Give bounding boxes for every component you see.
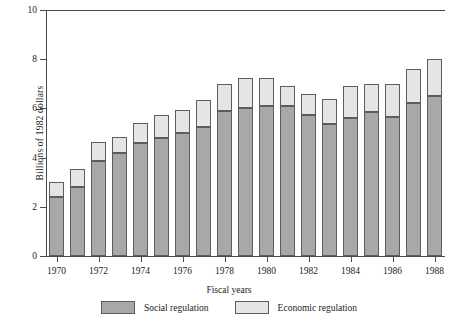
x-axis-line bbox=[46, 256, 445, 257]
bar-segment-social[interactable] bbox=[406, 103, 421, 256]
bar-segment-social[interactable] bbox=[385, 117, 400, 256]
bar-segment-social[interactable] bbox=[175, 133, 190, 256]
x-axis-tick-label: 1986 bbox=[383, 266, 402, 276]
bar-1976[interactable] bbox=[175, 110, 190, 256]
x-axis-tick-label: 1984 bbox=[341, 266, 360, 276]
bar-1975[interactable] bbox=[154, 115, 169, 256]
bar-segment-economic[interactable] bbox=[154, 115, 169, 138]
bar-segment-social[interactable] bbox=[133, 143, 148, 256]
y-axis-tick-label: 0 bbox=[32, 251, 37, 261]
y-axis-tick-label: 10 bbox=[28, 5, 38, 15]
bar-segment-economic[interactable] bbox=[217, 84, 232, 111]
bar-segment-economic[interactable] bbox=[322, 99, 337, 125]
legend-swatch bbox=[235, 301, 269, 314]
bar-segment-economic[interactable] bbox=[70, 169, 85, 187]
x-axis-tick bbox=[435, 256, 436, 262]
bar-1974[interactable] bbox=[133, 123, 148, 256]
x-axis-tick-label: 1972 bbox=[89, 266, 108, 276]
bar-segment-economic[interactable] bbox=[91, 142, 106, 162]
plot-area: 0246810 19701972197419761978198019821984… bbox=[46, 10, 445, 257]
legend-label: Economic regulation bbox=[278, 303, 357, 313]
bar-segment-social[interactable] bbox=[70, 187, 85, 256]
x-axis-tick bbox=[141, 256, 142, 262]
x-axis-tick-label: 1970 bbox=[47, 266, 66, 276]
bar-1978[interactable] bbox=[217, 84, 232, 256]
bar-segment-social[interactable] bbox=[217, 111, 232, 256]
bar-segment-economic[interactable] bbox=[196, 100, 211, 127]
bar-1987[interactable] bbox=[406, 69, 421, 256]
bar-1973[interactable] bbox=[112, 137, 127, 256]
bar-segment-social[interactable] bbox=[196, 127, 211, 256]
y-axis-tick-label: 4 bbox=[32, 153, 37, 163]
legend-item-economic[interactable]: Economic regulation bbox=[235, 301, 357, 314]
bar-1982[interactable] bbox=[301, 94, 316, 256]
bar-series-group bbox=[46, 10, 445, 256]
bar-segment-economic[interactable] bbox=[301, 94, 316, 115]
bar-1981[interactable] bbox=[280, 86, 295, 256]
bar-segment-economic[interactable] bbox=[406, 69, 421, 103]
bar-1988[interactable] bbox=[427, 59, 442, 256]
bar-segment-social[interactable] bbox=[343, 118, 358, 256]
bar-segment-economic[interactable] bbox=[385, 84, 400, 117]
bar-1979[interactable] bbox=[238, 78, 253, 256]
x-axis-tick bbox=[393, 256, 394, 262]
bar-segment-economic[interactable] bbox=[175, 110, 190, 133]
x-axis-tick bbox=[351, 256, 352, 262]
bar-1984[interactable] bbox=[343, 86, 358, 256]
bar-1980[interactable] bbox=[259, 78, 274, 256]
x-axis-tick bbox=[267, 256, 268, 262]
bar-1972[interactable] bbox=[91, 142, 106, 256]
x-axis-tick-label: 1980 bbox=[257, 266, 276, 276]
bar-segment-social[interactable] bbox=[301, 115, 316, 256]
bar-segment-social[interactable] bbox=[238, 108, 253, 256]
chart-container: Billions of 1982 dollars 0246810 1970197… bbox=[0, 0, 458, 326]
x-axis-tick-label: 1976 bbox=[173, 266, 192, 276]
y-axis-tick-label: 8 bbox=[32, 54, 37, 64]
legend-label: Social regulation bbox=[144, 303, 209, 313]
bar-segment-economic[interactable] bbox=[364, 84, 379, 112]
bar-segment-social[interactable] bbox=[154, 138, 169, 256]
y-axis-tick-label: 2 bbox=[32, 202, 37, 212]
x-axis-tick-label: 1982 bbox=[299, 266, 318, 276]
x-axis-tick bbox=[225, 256, 226, 262]
bar-segment-social[interactable] bbox=[49, 197, 64, 256]
bar-segment-social[interactable] bbox=[427, 96, 442, 256]
bar-1983[interactable] bbox=[322, 99, 337, 256]
x-axis-tick-label: 1988 bbox=[425, 266, 444, 276]
bar-1970[interactable] bbox=[49, 182, 64, 256]
bar-1986[interactable] bbox=[385, 84, 400, 256]
bar-segment-economic[interactable] bbox=[427, 59, 442, 96]
bar-segment-social[interactable] bbox=[364, 112, 379, 256]
x-axis-tick bbox=[57, 256, 58, 262]
bar-segment-economic[interactable] bbox=[133, 123, 148, 143]
bar-segment-social[interactable] bbox=[322, 124, 337, 256]
bar-segment-economic[interactable] bbox=[112, 137, 127, 153]
legend-item-social[interactable]: Social regulation bbox=[101, 301, 209, 314]
bar-segment-social[interactable] bbox=[259, 106, 274, 256]
x-axis-tick-label: 1978 bbox=[215, 266, 234, 276]
bar-1971[interactable] bbox=[70, 169, 85, 256]
bar-segment-social[interactable] bbox=[280, 106, 295, 256]
x-axis-title: Fiscal years bbox=[0, 285, 458, 295]
bar-segment-social[interactable] bbox=[91, 161, 106, 256]
bar-segment-economic[interactable] bbox=[343, 86, 358, 118]
bar-1985[interactable] bbox=[364, 84, 379, 256]
y-axis-tick bbox=[40, 256, 46, 257]
x-axis-tick bbox=[183, 256, 184, 262]
chart-legend: Social regulationEconomic regulation bbox=[0, 301, 458, 314]
bar-segment-economic[interactable] bbox=[49, 182, 64, 197]
bar-segment-economic[interactable] bbox=[280, 86, 295, 106]
x-axis-tick bbox=[99, 256, 100, 262]
bar-1977[interactable] bbox=[196, 100, 211, 256]
x-axis-tick bbox=[309, 256, 310, 262]
x-axis-tick-label: 1974 bbox=[131, 266, 150, 276]
legend-swatch bbox=[101, 301, 135, 314]
y-axis-tick-label: 6 bbox=[32, 103, 37, 113]
bar-segment-economic[interactable] bbox=[259, 78, 274, 106]
bar-segment-social[interactable] bbox=[112, 153, 127, 256]
bar-segment-economic[interactable] bbox=[238, 78, 253, 109]
